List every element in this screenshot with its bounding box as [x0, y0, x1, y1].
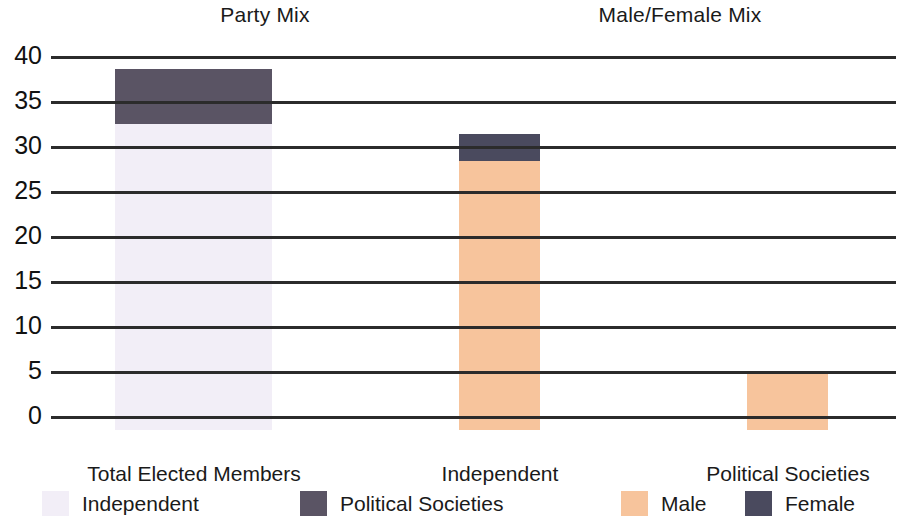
- bar-total-elected-members[interactable]: [115, 69, 272, 430]
- plot-area: 40 35 30 25 20 15 10 5 0: [0, 30, 903, 430]
- y-axis-tick-20: 20: [0, 223, 42, 248]
- bar-segment-independent: [115, 124, 272, 430]
- y-axis-tick-10: 10: [0, 313, 42, 338]
- y-axis-tick-35: 35: [0, 88, 42, 113]
- stacked-bar-chart: Party Mix Male/Female Mix 40 35 30 25 20…: [0, 0, 903, 531]
- gridline-35: [51, 101, 896, 104]
- y-axis-tick-5: 5: [0, 358, 42, 383]
- bar-segment-male: [747, 374, 828, 430]
- y-axis-tick-40: 40: [0, 43, 42, 68]
- gridline-10: [51, 326, 896, 329]
- y-axis-tick-30: 30: [0, 133, 42, 158]
- legend-swatch-male: [621, 491, 648, 516]
- legend-label-female: Female: [785, 493, 855, 514]
- bar-segment-political-societies: [115, 69, 272, 124]
- bar-segment-male: [459, 161, 540, 430]
- legend-swatch-political-societies: [300, 491, 327, 516]
- chart-legend: Independent Political Societies Male Fem…: [0, 486, 903, 531]
- gridline-5: [51, 371, 896, 374]
- bar-political-societies[interactable]: [747, 374, 828, 430]
- gridline-20: [51, 236, 896, 239]
- x-axis-label-political-societies: Political Societies: [648, 462, 903, 486]
- y-axis-tick-25: 25: [0, 178, 42, 203]
- legend-swatch-female: [745, 491, 772, 516]
- gridline-30: [51, 146, 896, 149]
- legend-item-political-societies[interactable]: Political Societies: [300, 486, 503, 520]
- gridline-25: [51, 191, 896, 194]
- legend-item-male[interactable]: Male: [621, 486, 707, 520]
- legend-label-political-societies: Political Societies: [340, 493, 503, 514]
- legend-label-male: Male: [661, 493, 707, 514]
- legend-item-independent[interactable]: Independent: [42, 486, 199, 520]
- group-title-male-female-mix: Male/Female Mix: [500, 3, 860, 27]
- gridline-0: [51, 416, 896, 419]
- y-axis-tick-0: 0: [0, 403, 42, 428]
- x-axis-label-total-elected-members: Total Elected Members: [44, 462, 344, 486]
- gridline-40: [51, 56, 896, 59]
- legend-item-female[interactable]: Female: [745, 486, 855, 520]
- legend-label-independent: Independent: [82, 493, 199, 514]
- legend-swatch-independent: [42, 491, 69, 516]
- y-axis-tick-15: 15: [0, 268, 42, 293]
- x-axis-label-independent: Independent: [380, 462, 620, 486]
- gridline-15: [51, 281, 896, 284]
- group-title-party-mix: Party Mix: [115, 3, 415, 27]
